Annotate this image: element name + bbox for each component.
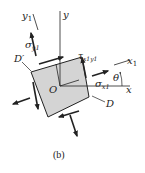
theta-arc: [120, 72, 122, 86]
d-leader: [92, 96, 105, 102]
y-axis-label: y: [62, 9, 69, 20]
point-d-label: D: [105, 98, 114, 109]
x1-axis-label: x1: [127, 55, 137, 68]
tau-top-arrow: [39, 57, 63, 64]
sigma-y1-neg-arrow: [70, 115, 77, 136]
sigma-x1-neg-arrow: [13, 98, 30, 104]
tau-bottom-arrow: [59, 111, 79, 117]
y1-axis-ext: [33, 14, 38, 30]
point-d-prime-label: D′: [13, 53, 25, 64]
stress-element-diagram: y x y1 x1 O θ σy1 σx1 τx1y1 D D′ (b): [0, 0, 145, 173]
y1-axis-label: y1: [21, 10, 32, 23]
origin-label: O: [49, 84, 57, 95]
theta-label: θ: [113, 72, 119, 83]
sigma-x1-label: σx1: [95, 78, 110, 91]
sigma-x1-arrow: [92, 71, 108, 76]
figure-caption: (b): [53, 149, 65, 161]
diagram-svg: y x y1 x1 O θ σy1 σx1 τx1y1 D D′ (b): [0, 0, 145, 173]
x-axis-label: x: [126, 84, 132, 95]
